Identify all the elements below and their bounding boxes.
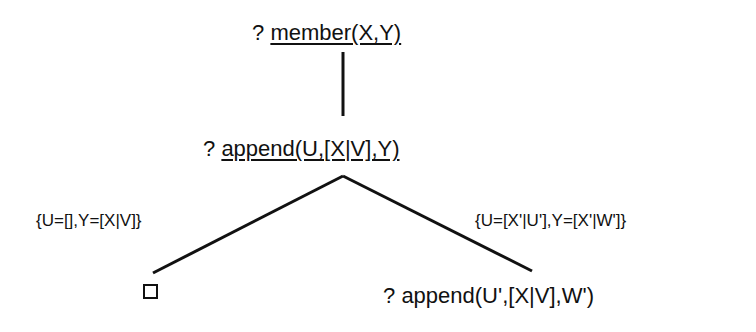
query-prefix: ? <box>383 283 395 308</box>
empty-clause-box <box>143 284 158 299</box>
right-result-goal-text: append(U',[X|V],W') <box>401 283 594 308</box>
left-substitution-label: {U=[],Y=[X|V]} <box>36 212 142 229</box>
append-goal-text: append(U,[X|V],Y) <box>221 136 399 161</box>
query-prefix: ? <box>252 20 264 45</box>
query-prefix: ? <box>203 136 215 161</box>
right-substitution-label: {U=[X'|U'],Y=[X'|W']} <box>475 212 626 229</box>
root-goal-text: member(X,Y) <box>270 20 401 45</box>
edge-left-branch <box>153 176 343 273</box>
root-goal-node: ? member(X,Y) <box>252 22 401 44</box>
right-result-node: ? append(U',[X|V],W') <box>383 285 594 307</box>
tree-edges <box>0 0 756 332</box>
append-goal-node: ? append(U,[X|V],Y) <box>203 138 400 160</box>
